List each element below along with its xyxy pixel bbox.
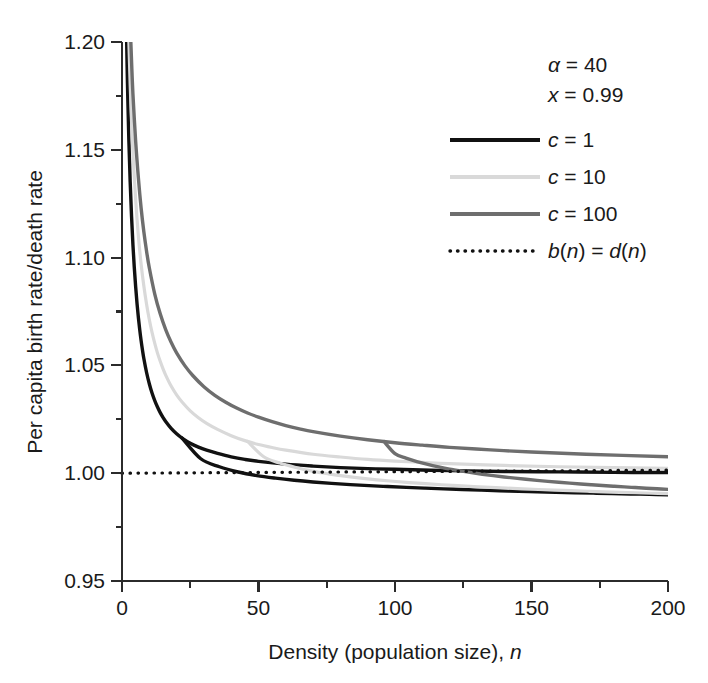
x-axis-title: Density (population size), n xyxy=(268,640,521,663)
y-axis-tick-label: 1.05 xyxy=(64,353,105,376)
y-axis-tick-label: 1.15 xyxy=(64,138,105,161)
chart-figure: 0.951.001.051.101.151.20050100150200 Den… xyxy=(0,0,708,683)
x-axis-title-variable: n xyxy=(510,640,522,663)
x-axis-tick-label: 200 xyxy=(650,596,685,619)
y-axis-title: Per capita birth rate/death rate xyxy=(23,170,46,454)
y-axis-tick-label: 1.00 xyxy=(64,461,105,484)
x-axis-tick-label: 100 xyxy=(377,596,412,619)
y-axis-tick-label: 0.95 xyxy=(64,569,105,592)
x-axis-tick-label: 0 xyxy=(116,596,128,619)
x-axis-tick-label: 150 xyxy=(514,596,549,619)
legend-label: c = 10 xyxy=(548,165,606,188)
y-axis-tick-label: 1.20 xyxy=(64,30,105,53)
x-axis-tick-label: 50 xyxy=(247,596,270,619)
legend-label: c = 1 xyxy=(548,128,594,151)
x-param: x = 0.99 xyxy=(547,83,623,106)
alpha-param: α = 40 xyxy=(548,53,607,76)
y-axis-tick-label: 1.10 xyxy=(64,246,105,269)
legend-label-reference: b(n) = d(n) xyxy=(548,239,647,262)
x-axis-title-main: Density (population size), xyxy=(268,640,510,663)
legend-label: c = 100 xyxy=(548,202,617,225)
line-chart: 0.951.001.051.101.151.20050100150200 Den… xyxy=(0,0,708,683)
